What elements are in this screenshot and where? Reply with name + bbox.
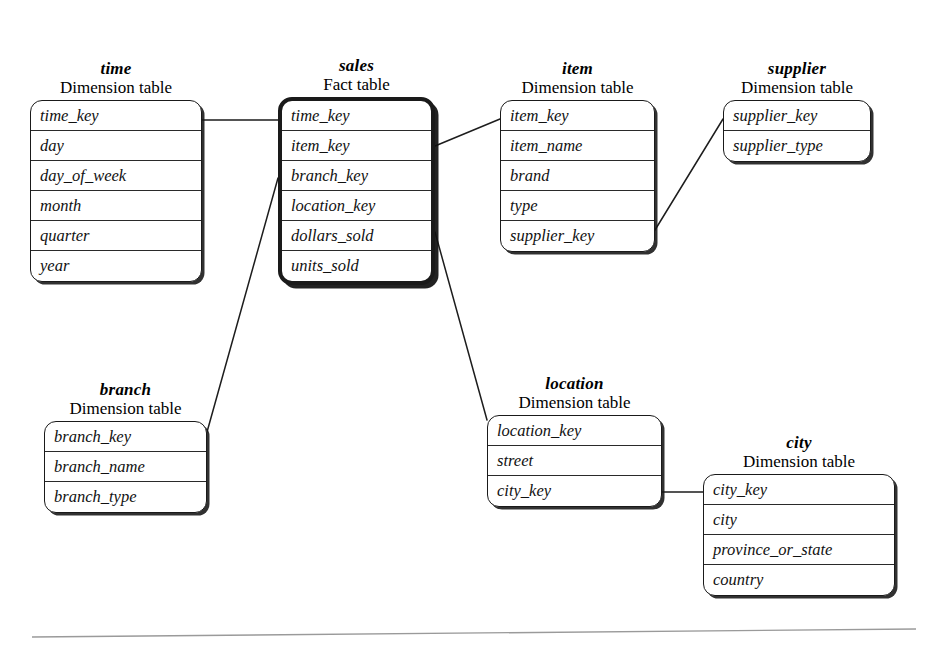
- entity-subtitle-supplier: Dimension table: [723, 78, 871, 97]
- entity-subtitle-location: Dimension table: [487, 393, 662, 412]
- entity-box-sales: time_keyitem_keybranch_keylocation_keydo…: [278, 97, 435, 285]
- field-city-city_key: city_key: [704, 475, 894, 505]
- entity-name-sales: sales: [278, 56, 435, 75]
- entity-branch: branchDimension tablebranch_keybranch_na…: [44, 380, 207, 513]
- entity-time: timeDimension tabletime_keydayday_of_wee…: [30, 59, 202, 282]
- entity-subtitle-sales: Fact table: [278, 75, 435, 94]
- entity-name-time: time: [30, 59, 202, 78]
- entity-name-city: city: [703, 433, 895, 452]
- entity-box-supplier: supplier_keysupplier_type: [723, 100, 871, 162]
- entity-caption-branch: branchDimension table: [44, 380, 207, 418]
- entity-caption-time: timeDimension table: [30, 59, 202, 97]
- field-location-city_key: city_key: [488, 476, 661, 506]
- field-sales-location_key: location_key: [282, 191, 431, 221]
- field-item-type: type: [501, 191, 654, 221]
- entity-subtitle-time: Dimension table: [30, 78, 202, 97]
- entity-name-supplier: supplier: [723, 59, 871, 78]
- field-city-country: country: [704, 565, 894, 595]
- field-sales-item_key: item_key: [282, 131, 431, 161]
- field-city-province_or_state: province_or_state: [704, 535, 894, 565]
- field-time-time_key: time_key: [31, 101, 201, 131]
- field-time-month: month: [31, 191, 201, 221]
- entity-name-item: item: [500, 59, 655, 78]
- field-item-brand: brand: [501, 161, 654, 191]
- entity-subtitle-branch: Dimension table: [44, 399, 207, 418]
- field-item-supplier_key: supplier_key: [501, 221, 654, 251]
- entity-name-branch: branch: [44, 380, 207, 399]
- entity-caption-city: cityDimension table: [703, 433, 895, 471]
- field-branch-branch_key: branch_key: [45, 422, 206, 452]
- field-item-item_key: item_key: [501, 101, 654, 131]
- entity-box-item: item_keyitem_namebrandtypesupplier_key: [500, 100, 655, 252]
- entity-sales: salesFact tabletime_keyitem_keybranch_ke…: [278, 56, 435, 285]
- entity-location: locationDimension tablelocation_keystree…: [487, 374, 662, 507]
- entity-city: cityDimension tablecity_keycityprovince_…: [703, 433, 895, 596]
- entity-box-city: city_keycityprovince_or_statecountry: [703, 474, 895, 596]
- entity-name-location: location: [487, 374, 662, 393]
- field-location-location_key: location_key: [488, 416, 661, 446]
- field-branch-branch_type: branch_type: [45, 482, 206, 512]
- connector-item-supplier: [655, 119, 723, 230]
- entity-item: itemDimension tableitem_keyitem_namebran…: [500, 59, 655, 252]
- field-time-quarter: quarter: [31, 221, 201, 251]
- entity-box-location: location_keystreetcity_key: [487, 415, 662, 507]
- field-city-city: city: [704, 505, 894, 535]
- schema-diagram-canvas: timeDimension tabletime_keydayday_of_wee…: [0, 0, 940, 652]
- connector-sales-location: [435, 232, 487, 420]
- entity-caption-supplier: supplierDimension table: [723, 59, 871, 97]
- entity-box-time: time_keydayday_of_weekmonthquarteryear: [30, 100, 202, 282]
- field-sales-dollars_sold: dollars_sold: [282, 221, 431, 251]
- field-time-year: year: [31, 251, 201, 281]
- field-supplier-supplier_type: supplier_type: [724, 131, 870, 161]
- entity-subtitle-item: Dimension table: [500, 78, 655, 97]
- field-time-day: day: [31, 131, 201, 161]
- field-sales-branch_key: branch_key: [282, 161, 431, 191]
- field-supplier-supplier_key: supplier_key: [724, 101, 870, 131]
- entity-box-branch: branch_keybranch_namebranch_type: [44, 421, 207, 513]
- connector-sales-branch: [207, 178, 278, 432]
- entity-caption-sales: salesFact table: [278, 56, 435, 94]
- connector-sales-item: [435, 119, 500, 146]
- field-sales-units_sold: units_sold: [282, 251, 431, 281]
- field-item-item_name: item_name: [501, 131, 654, 161]
- field-sales-time_key: time_key: [282, 101, 431, 131]
- field-branch-branch_name: branch_name: [45, 452, 206, 482]
- entity-supplier: supplierDimension tablesupplier_keysuppl…: [723, 59, 871, 162]
- field-time-day_of_week: day_of_week: [31, 161, 201, 191]
- entity-subtitle-city: Dimension table: [703, 452, 895, 471]
- entity-caption-item: itemDimension table: [500, 59, 655, 97]
- field-location-street: street: [488, 446, 661, 476]
- entity-caption-location: locationDimension table: [487, 374, 662, 412]
